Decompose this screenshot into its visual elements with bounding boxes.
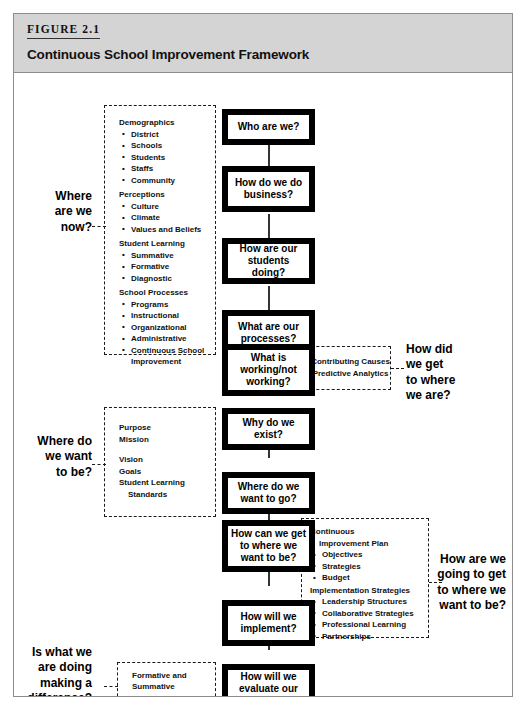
purpose-line: Goals — [119, 466, 215, 478]
tick-is-what-we-are-doing — [104, 686, 118, 687]
box-how-can-we-get-there[interactable]: How can we get to where we want to be? — [222, 520, 315, 572]
box-label: Where do we want to go? — [228, 478, 309, 508]
causes-line: Predictive Analytics — [311, 368, 390, 380]
list-item: Strategies — [310, 561, 428, 573]
box-what-is-working[interactable]: What is working/not working? — [222, 344, 315, 396]
panel-plan: Continuous Improvement Plan Objectives S… — [301, 518, 429, 638]
list-head-cont: Improvement Plan — [310, 538, 428, 550]
box-label: How are our students doing? — [228, 244, 309, 278]
purpose-spacer — [119, 445, 215, 454]
list-head: School Processes — [119, 287, 215, 299]
list-item: Leadership Structures — [310, 596, 428, 608]
box-where-do-we-want-to-go[interactable]: Where do we want to go? — [222, 472, 315, 514]
box-how-do-we-do-business[interactable]: How do we do business? — [222, 166, 315, 212]
list-item: Objectives — [310, 549, 428, 561]
box-how-will-we-implement[interactable]: How will we implement? — [222, 600, 315, 646]
box-label: Why do we exist? — [228, 414, 309, 444]
figure-title: Continuous School Improvement Framework — [27, 47, 309, 62]
tick-where-do-we-want-to-be — [92, 464, 106, 465]
purpose-line: Mission — [119, 434, 215, 446]
box-label: How will we implement? — [228, 606, 309, 640]
label-how-did-we-get: How did we get to where we are? — [406, 342, 506, 403]
list-item: Budget — [310, 572, 428, 584]
panel-evaluation: Formative and Summative Evaluation — [117, 662, 216, 697]
plan-list: Continuous Improvement Plan Objectives S… — [310, 526, 428, 642]
list-item: Staffs — [119, 163, 215, 175]
list-head: Demographics — [119, 117, 215, 129]
panel-data: Demographics District Schools Students S… — [104, 105, 216, 355]
figure-number: FIGURE 2.1 — [27, 23, 100, 39]
box-why-do-we-exist[interactable]: Why do we exist? — [222, 408, 315, 450]
list-item: Summative — [119, 250, 215, 262]
purpose-line: Purpose — [119, 422, 215, 434]
list-item: Formative — [119, 261, 215, 273]
box-how-are-our-students-doing[interactable]: How are our students doing? — [222, 238, 315, 284]
evaluation-line: Evaluation — [132, 693, 215, 697]
list-item: Administrative — [119, 333, 215, 345]
list-head: Implementation Strategies — [310, 585, 428, 597]
list-item: Students — [119, 152, 215, 164]
figure-container: FIGURE 2.1 Continuous School Improvement… — [13, 13, 513, 697]
label-where-are-we-now: Where are we now? — [22, 189, 92, 235]
label-how-are-we-going-to-get: How are we going to get to where we want… — [422, 552, 506, 613]
list-head: Continuous — [310, 526, 428, 538]
list-item: District — [119, 129, 215, 141]
list-item: Organizational — [119, 322, 215, 334]
causes-line: Contributing Causes — [311, 356, 390, 368]
tick-where-are-we-now — [92, 226, 106, 227]
list-item: Climate — [119, 212, 215, 224]
list-item: Community — [119, 175, 215, 187]
box-label: What is working/not working? — [228, 350, 309, 390]
list-head: Student Learning — [119, 238, 215, 250]
figure-header: FIGURE 2.1 Continuous School Improvement… — [14, 14, 512, 73]
box-label: How do we do business? — [228, 172, 309, 206]
evaluation-line: Summative — [132, 681, 215, 693]
list-item: Professional Learning — [310, 619, 428, 631]
list-item: Collaborative Strategies — [310, 608, 428, 620]
data-list: Demographics District Schools Students S… — [119, 117, 215, 368]
box-how-will-we-evaluate[interactable]: How will we evaluate our efforts? — [222, 664, 315, 697]
list-item: Diagnostic — [119, 273, 215, 285]
evaluation-line: Formative and — [132, 670, 215, 682]
list-item: Schools — [119, 140, 215, 152]
list-item: Continuous School Improvement — [119, 345, 215, 368]
purpose-line: Vision — [119, 454, 215, 466]
tick-how-did-we-get — [391, 368, 404, 369]
label-is-what-we-are-doing: Is what we are doing making a difference… — [18, 645, 92, 697]
list-item: Instructional — [119, 310, 215, 322]
list-item: Culture — [119, 201, 215, 213]
box-label: How will we evaluate our efforts? — [228, 670, 309, 697]
list-head: Perceptions — [119, 189, 215, 201]
list-item: Partnerships — [310, 631, 428, 643]
box-label: How can we get to where we want to be? — [228, 526, 309, 566]
purpose-list: Purpose Mission Vision Goals Student Lea… — [119, 422, 215, 500]
box-label: Who are we? — [228, 115, 309, 139]
purpose-line: Standards — [119, 489, 215, 501]
label-where-do-we-want-to-be: Where do we want to be? — [20, 434, 92, 480]
diagram-canvas: Demographics District Schools Students S… — [14, 74, 512, 697]
panel-purpose: Purpose Mission Vision Goals Student Lea… — [104, 407, 216, 517]
list-item: Values and Beliefs — [119, 224, 215, 236]
purpose-line: Student Learning — [119, 477, 215, 489]
box-who-are-we[interactable]: Who are we? — [222, 109, 315, 145]
list-item: Programs — [119, 299, 215, 311]
